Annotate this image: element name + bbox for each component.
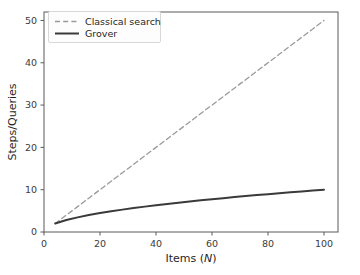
- legend-label-classical-search: Classical search: [85, 16, 161, 27]
- figure-canvas: 020406080100 01020304050 Items (N) Steps…: [0, 0, 360, 275]
- x-tick-label: 0: [41, 238, 47, 249]
- x-tick-label: 80: [262, 238, 274, 249]
- x-tick-label: 20: [94, 238, 106, 249]
- y-tick-label: 30: [25, 99, 37, 110]
- x-tick-label: 40: [150, 238, 162, 249]
- chart-legend[interactable]: Classical search Grover: [49, 12, 161, 43]
- y-tick-label: 50: [25, 15, 37, 26]
- line-chart: 020406080100 01020304050 Items (N) Steps…: [0, 0, 360, 275]
- x-axis-title: Items (N): [165, 252, 216, 265]
- x-tick-label: 100: [315, 238, 333, 249]
- x-tick-label: 60: [206, 238, 218, 249]
- y-axis-title: Steps/Queries: [6, 83, 19, 160]
- legend-label-grover: Grover: [85, 28, 117, 39]
- y-tick-label: 20: [25, 142, 37, 153]
- y-tick-label: 40: [25, 57, 37, 68]
- y-tick-label: 0: [31, 226, 37, 237]
- y-tick-label: 10: [25, 184, 37, 195]
